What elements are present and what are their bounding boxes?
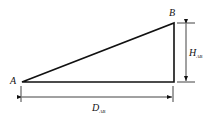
- distance-label: DAB: [91, 102, 105, 114]
- triangle-diagram: A B HAB DAB: [0, 0, 211, 123]
- point-a-label: A: [9, 75, 17, 86]
- point-b-label: B: [169, 7, 175, 18]
- height-label: HAB: [188, 47, 202, 59]
- triangle-shape: [22, 23, 174, 82]
